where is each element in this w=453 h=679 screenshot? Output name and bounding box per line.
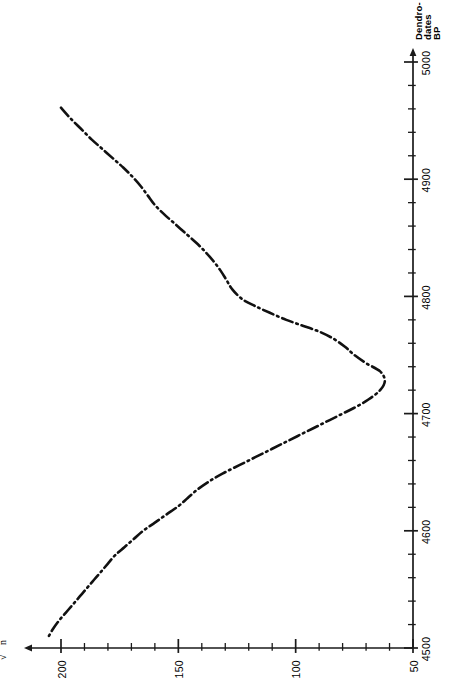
dendro-dates-chart: 20015010050 450046004700480049005000 Den… xyxy=(0,0,453,679)
formula-denominator: n xyxy=(0,640,8,645)
y-axis-tick-label: 4900 xyxy=(420,168,432,193)
x-axis-tick-label: 200 xyxy=(56,660,68,678)
y-axis-tick-label: 4600 xyxy=(420,520,432,545)
chart-background xyxy=(0,0,453,679)
x-axis-formula: √ xyxy=(0,654,8,660)
y-axis-tick-label: 4800 xyxy=(420,285,432,310)
y-axis-title-line3: BP xyxy=(431,26,442,40)
x-axis-tick-label: 50 xyxy=(408,660,420,672)
y-axis-tick-label: 5000 xyxy=(420,51,432,76)
x-axis-tick-label: 150 xyxy=(173,660,185,678)
x-axis-tick-label: 100 xyxy=(290,660,302,678)
y-axis-tick-label: 4500 xyxy=(420,637,432,662)
chart-root: 20015010050 450046004700480049005000 Den… xyxy=(0,0,453,679)
y-axis-tick-label: 4700 xyxy=(420,402,432,427)
radical-sign: √ xyxy=(0,654,8,660)
